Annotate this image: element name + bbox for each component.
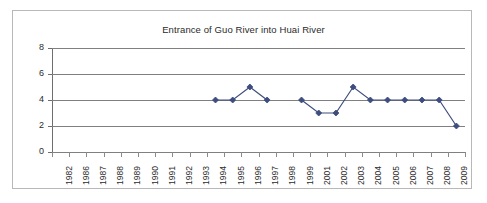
- y-tick-label-4: 4: [22, 95, 44, 104]
- y-tick-label-0: 0: [22, 147, 44, 156]
- data-point-1994: [212, 97, 218, 103]
- x-tick-label-2003: 2003: [357, 166, 366, 185]
- y-tick-label-6: 6: [22, 69, 44, 78]
- x-tick-label-1995: 1995: [237, 166, 246, 185]
- x-tick-label-2004: 2004: [374, 166, 383, 185]
- x-tick-label-1996: 1996: [254, 166, 263, 185]
- x-tick-label-1993: 1993: [202, 166, 211, 185]
- data-series-line: [52, 48, 465, 158]
- x-tick-label-1986: 1986: [82, 166, 91, 185]
- x-tick-label-1987: 1987: [99, 166, 108, 185]
- x-tick-label-1988: 1988: [116, 166, 125, 185]
- data-point-2005: [385, 97, 391, 103]
- x-tick-label-1999: 1999: [306, 166, 315, 185]
- y-tick-label-8: 8: [22, 43, 44, 52]
- x-tick-label-2009: 2009: [460, 166, 469, 185]
- x-tick-label-2001: 2001: [323, 166, 332, 185]
- x-tick-label-2008: 2008: [443, 166, 452, 185]
- x-tick-label-2005: 2005: [392, 166, 401, 185]
- x-tick-label-1990: 1990: [151, 166, 160, 185]
- x-tick-label-1989: 1989: [133, 166, 142, 185]
- data-point-2006: [402, 97, 408, 103]
- chart-title: Entrance of Guo River into Huai River: [0, 24, 487, 35]
- x-tick-label-1982: 1982: [65, 166, 74, 185]
- series-line-segment: [302, 87, 457, 126]
- x-tick-label-2002: 2002: [340, 166, 349, 185]
- x-tick-label-1991: 1991: [168, 166, 177, 185]
- x-tick-label-2007: 2007: [426, 166, 435, 185]
- chart-figure: Entrance of Guo River into Huai River 02…: [0, 0, 487, 203]
- x-tick-label-1997: 1997: [271, 166, 280, 185]
- data-point-2007: [419, 97, 425, 103]
- y-tick-label-2: 2: [22, 121, 44, 130]
- x-tick: [465, 152, 466, 157]
- x-tick-label-2006: 2006: [409, 166, 418, 185]
- x-tick-label-1994: 1994: [219, 166, 228, 185]
- x-tick-label-1998: 1998: [288, 166, 297, 185]
- series-line-segment: [215, 87, 267, 100]
- plot-area: 02468 1982198619871988198919901991199219…: [52, 48, 465, 152]
- x-tick-label-1992: 1992: [185, 166, 194, 185]
